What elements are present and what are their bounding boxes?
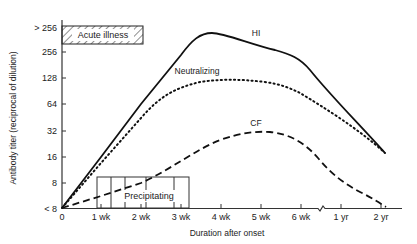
y-tick-label: < 8 (44, 204, 57, 214)
hi-series-line (62, 33, 385, 208)
x-tick-label: 4 wk (212, 212, 231, 222)
x-axis-title: Duration after onset (190, 228, 265, 238)
x-tick-label: 1 yr (333, 212, 348, 222)
y-tick-label: > 256 (34, 23, 57, 33)
y-tick-label: 32 (47, 126, 57, 136)
x-ticks: 0 1 wk 2 wk 3 wk 4 wk 5 wk 6 wk 1 yr 2 y… (59, 204, 388, 222)
y-ticks: < 8 8 16 32 64 128 256 > 256 (34, 23, 66, 214)
x-tick-label: 2 wk (132, 212, 151, 222)
acute-illness-annotation: Acute illness (62, 26, 143, 44)
y-tick-label: 256 (42, 47, 57, 57)
antibody-titer-chart: Antibody titer (reciprocal of dilution) … (0, 0, 417, 244)
hi-series-label: HI (252, 28, 261, 38)
acute-illness-label: Acute illness (78, 30, 129, 40)
x-tick-label: 1 wk (92, 212, 111, 222)
y-tick-label: 64 (47, 99, 57, 109)
y-tick-label: 128 (42, 73, 57, 83)
precipitating-label: Precipitating (124, 191, 174, 201)
x-tick-label: 2 yr (373, 212, 388, 222)
x-tick-label: 3 wk (172, 212, 191, 222)
x-tick-label: 5 wk (252, 212, 271, 222)
precipitating-annotation: Precipitating (97, 177, 189, 208)
y-tick-label: 16 (47, 152, 57, 162)
x-tick-label: 0 (59, 212, 64, 222)
cf-series-label: CF (250, 118, 261, 128)
x-tick-label: 6 wk (292, 212, 311, 222)
y-axis-title: Antibody titer (reciprocal of dilution) (8, 51, 18, 184)
neutralizing-series-label: Neutralizing (175, 66, 220, 76)
y-tick-label: 8 (52, 178, 57, 188)
